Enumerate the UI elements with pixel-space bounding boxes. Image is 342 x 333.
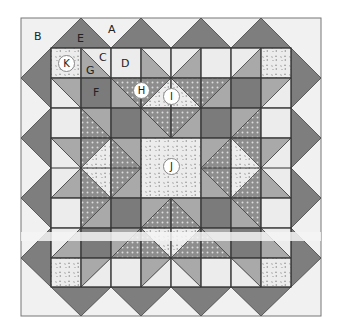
label-h: H bbox=[133, 82, 150, 99]
label-a: A bbox=[108, 24, 116, 35]
label-b: B bbox=[34, 31, 42, 42]
label-d: D bbox=[121, 58, 129, 69]
label-k: K bbox=[58, 55, 75, 72]
label-g: G bbox=[86, 65, 95, 76]
label-j: J bbox=[163, 158, 180, 175]
scan-artifact-band bbox=[21, 232, 321, 241]
label-e: E bbox=[77, 33, 84, 44]
label-f: F bbox=[93, 87, 99, 98]
label-i: I bbox=[163, 88, 180, 105]
label-c: C bbox=[99, 52, 107, 63]
